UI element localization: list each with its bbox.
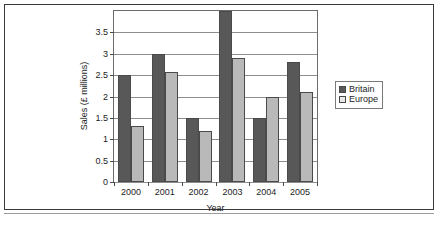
bar-europe-2001[interactable] bbox=[165, 72, 178, 182]
y-axis-tick-label: 1 bbox=[103, 135, 108, 144]
x-axis-tick bbox=[114, 182, 115, 186]
x-axis-tick bbox=[283, 182, 284, 186]
bar-britain-2001[interactable] bbox=[152, 54, 165, 182]
bar-europe-2002[interactable] bbox=[199, 131, 212, 182]
x-axis-tick-label: 2003 bbox=[222, 188, 242, 197]
x-axis-tick-label: 2002 bbox=[189, 188, 209, 197]
bar-europe-2003[interactable] bbox=[232, 58, 245, 182]
legend-swatch-europe-icon bbox=[339, 96, 346, 103]
x-axis-tick bbox=[182, 182, 183, 186]
bar-europe-2004[interactable] bbox=[266, 97, 279, 183]
bar-chart: 00.511.522.533.5 20002001200220032004200… bbox=[0, 0, 440, 225]
plot-area: 00.511.522.533.5 20002001200220032004200… bbox=[113, 10, 318, 183]
legend-label-europe: Europe bbox=[349, 95, 378, 104]
bar-europe-2000[interactable] bbox=[131, 126, 144, 182]
x-axis-tick bbox=[216, 182, 217, 186]
legend-item-britain[interactable]: Britain bbox=[339, 85, 378, 94]
legend-swatch-britain-icon bbox=[339, 86, 346, 93]
y-axis-tick-label: 0.5 bbox=[95, 156, 108, 165]
bar-britain-2004[interactable] bbox=[253, 118, 266, 182]
bar-britain-2000[interactable] bbox=[118, 75, 131, 182]
bar-britain-2002[interactable] bbox=[186, 118, 199, 182]
chart-legend: Britain Europe bbox=[335, 81, 383, 109]
x-axis-tick-label: 2000 bbox=[121, 188, 141, 197]
y-axis-tick-label: 3.5 bbox=[95, 28, 108, 37]
bar-britain-2003[interactable] bbox=[219, 11, 232, 182]
x-axis-title: Year bbox=[113, 204, 318, 213]
bar-group bbox=[182, 11, 216, 182]
bar-britain-2005[interactable] bbox=[287, 62, 300, 182]
x-axis-tick-label: 2001 bbox=[155, 188, 175, 197]
y-axis-tick-label: 0 bbox=[103, 178, 108, 187]
chart-figure: 00.511.522.533.5 20002001200220032004200… bbox=[0, 0, 440, 225]
bar-group bbox=[216, 11, 250, 182]
x-axis-tick bbox=[148, 182, 149, 186]
x-axis-tick bbox=[249, 182, 250, 186]
y-axis-tick-label: 2.5 bbox=[95, 71, 108, 80]
x-axis-tick-label: 2005 bbox=[290, 188, 310, 197]
y-axis-tick-label: 1.5 bbox=[95, 113, 108, 122]
bar-group bbox=[114, 11, 148, 182]
x-axis-tick bbox=[317, 182, 318, 186]
y-axis-tick-label: 3 bbox=[103, 49, 108, 58]
x-axis-tick-label: 2004 bbox=[256, 188, 276, 197]
bar-europe-2005[interactable] bbox=[300, 92, 313, 182]
bar-group bbox=[283, 11, 317, 182]
bar-group bbox=[249, 11, 283, 182]
y-axis-tick-label: 2 bbox=[103, 92, 108, 101]
legend-label-britain: Britain bbox=[349, 85, 375, 94]
bar-group bbox=[148, 11, 182, 182]
legend-item-europe[interactable]: Europe bbox=[339, 95, 378, 104]
y-axis-title: Sales (£ millions) bbox=[80, 62, 89, 131]
